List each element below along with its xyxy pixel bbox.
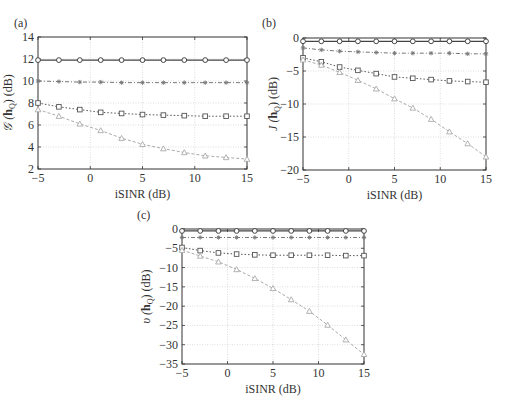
y-tick-label: −20 bbox=[159, 299, 178, 313]
star-marker-icon bbox=[319, 48, 323, 52]
star-marker-icon bbox=[180, 235, 184, 239]
star-marker-icon bbox=[198, 235, 202, 239]
x-tick-label: 0 bbox=[225, 366, 231, 380]
circle-marker-icon bbox=[140, 58, 145, 63]
circle-marker-icon bbox=[343, 229, 348, 234]
square-marker-icon bbox=[203, 114, 208, 119]
y-tick-label: 6 bbox=[28, 118, 34, 132]
y-tick-label: −10 bbox=[159, 261, 178, 275]
star-marker-icon bbox=[392, 51, 396, 55]
series-circle bbox=[301, 39, 489, 44]
circle-marker-icon bbox=[319, 39, 324, 44]
star-marker-icon bbox=[224, 80, 228, 84]
triangle-marker-icon bbox=[373, 86, 379, 91]
square-marker-icon bbox=[325, 253, 330, 258]
triangle-marker-icon bbox=[288, 297, 294, 302]
circle-marker-icon bbox=[36, 58, 41, 63]
square-marker-icon bbox=[411, 76, 416, 81]
star-marker-icon bbox=[301, 46, 305, 50]
y-tick-label: −20 bbox=[280, 163, 299, 177]
grid bbox=[38, 37, 247, 169]
star-marker-icon bbox=[466, 52, 470, 56]
circle-marker-icon bbox=[57, 58, 62, 63]
star-marker-icon bbox=[203, 80, 207, 84]
star-marker-icon bbox=[57, 79, 61, 83]
series-star bbox=[180, 235, 366, 239]
square-marker-icon bbox=[245, 114, 250, 119]
star-marker-icon bbox=[362, 235, 366, 239]
star-marker-icon bbox=[253, 235, 257, 239]
grid bbox=[303, 38, 486, 170]
circle-marker-icon bbox=[374, 39, 379, 44]
star-marker-icon bbox=[307, 235, 311, 239]
circle-marker-icon bbox=[392, 39, 397, 44]
x-tick-label: 0 bbox=[346, 172, 352, 186]
triangle-marker-icon bbox=[307, 308, 313, 313]
y-tick-label: −5 bbox=[165, 241, 178, 255]
circle-marker-icon bbox=[224, 58, 229, 63]
circle-marker-icon bbox=[271, 229, 276, 234]
x-tick-label: 15 bbox=[358, 366, 370, 380]
star-marker-icon bbox=[216, 235, 220, 239]
circle-marker-icon bbox=[325, 229, 330, 234]
circle-marker-icon bbox=[198, 229, 203, 234]
square-marker-icon bbox=[271, 253, 276, 258]
square-marker-icon bbox=[36, 101, 41, 106]
star-marker-icon bbox=[411, 51, 415, 55]
x-tick-label: 5 bbox=[270, 366, 276, 380]
star-marker-icon bbox=[234, 235, 238, 239]
square-marker-icon bbox=[484, 80, 489, 85]
square-marker-icon bbox=[356, 68, 361, 73]
circle-marker-icon bbox=[410, 39, 415, 44]
square-marker-icon bbox=[362, 253, 367, 258]
triangle-marker-icon bbox=[355, 77, 361, 82]
y-tick-label: 0 bbox=[172, 222, 178, 236]
star-marker-icon bbox=[271, 235, 275, 239]
x-tick-label: 0 bbox=[87, 171, 93, 185]
series-square bbox=[301, 56, 489, 85]
circle-marker-icon bbox=[180, 229, 185, 234]
circle-marker-icon bbox=[252, 229, 257, 234]
square-marker-icon bbox=[216, 251, 221, 256]
star-marker-icon bbox=[337, 49, 341, 53]
circle-marker-icon bbox=[301, 39, 306, 44]
x-tick-label: 10 bbox=[189, 171, 201, 185]
triangle-marker-icon bbox=[428, 116, 434, 121]
triangle-marker-icon bbox=[483, 154, 489, 159]
grid bbox=[182, 229, 364, 364]
y-axis-label: J (hQ) (dB) bbox=[266, 77, 282, 131]
circle-marker-icon bbox=[245, 58, 250, 63]
square-marker-icon bbox=[253, 253, 258, 258]
y-tick-label: 14 bbox=[22, 30, 34, 44]
square-marker-icon bbox=[392, 75, 397, 80]
star-marker-icon bbox=[429, 51, 433, 55]
chart-panel-b: −5051015−20−15−10−50iSINR (dB)J (hQ) (dB… bbox=[262, 16, 492, 202]
star-marker-icon bbox=[447, 51, 451, 55]
figure: −50510152468101214iSINR (dB)𝒢 (hQ) (dB)(… bbox=[0, 0, 511, 404]
circle-marker-icon bbox=[203, 58, 208, 63]
star-marker-icon bbox=[78, 80, 82, 84]
star-marker-icon bbox=[99, 80, 103, 84]
series-circle bbox=[36, 58, 250, 63]
star-marker-icon bbox=[36, 79, 40, 83]
triangle-marker-icon bbox=[410, 105, 416, 110]
square-marker-icon bbox=[98, 110, 103, 115]
circle-marker-icon bbox=[77, 58, 82, 63]
square-marker-icon bbox=[57, 105, 62, 110]
y-tick-label: −15 bbox=[159, 280, 178, 294]
panel-label: (b) bbox=[262, 16, 276, 30]
star-marker-icon bbox=[374, 50, 378, 54]
triangle-marker-icon bbox=[361, 352, 367, 357]
y-tick-label: −15 bbox=[280, 130, 299, 144]
y-axis-label: υ (hQ) (dB) bbox=[139, 270, 155, 324]
y-tick-label: 2 bbox=[28, 162, 34, 176]
star-marker-icon bbox=[325, 235, 329, 239]
square-marker-icon bbox=[119, 111, 124, 116]
x-tick-label: 5 bbox=[392, 172, 398, 186]
y-tick-label: 0 bbox=[293, 31, 299, 45]
x-tick-label: 15 bbox=[241, 171, 253, 185]
x-tick-label: 10 bbox=[313, 366, 325, 380]
triangle-marker-icon bbox=[244, 156, 250, 161]
y-tick-label: −10 bbox=[280, 97, 299, 111]
triangle-marker-icon bbox=[56, 113, 62, 118]
